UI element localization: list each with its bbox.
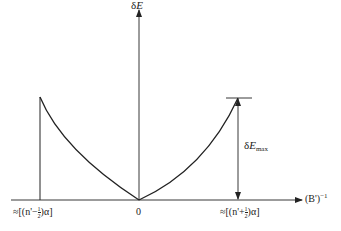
- left-tick-label: ≈[(n'−12)α]: [13, 206, 53, 219]
- right-tick-label: ≈[(n'+12)α]: [220, 206, 260, 219]
- origin-label: 0: [136, 207, 141, 217]
- energy-curve-right: [139, 98, 238, 200]
- delta-e-max-label: δEmax: [244, 140, 268, 153]
- y-axis-label: δE: [131, 0, 143, 11]
- x-axis-label: (B')−1: [305, 193, 328, 204]
- energy-curve-left: [40, 97, 139, 200]
- diagram-canvas: [0, 0, 341, 231]
